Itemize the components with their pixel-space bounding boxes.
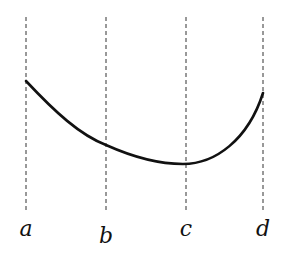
diagram-figure: a b c d (0, 0, 286, 255)
marker-label-c: c (180, 216, 192, 241)
marker-label-a: a (19, 216, 32, 241)
marker-label-d: d (256, 216, 270, 241)
curve (26, 81, 263, 164)
marker-label-b: b (99, 223, 113, 248)
marker-labels: a b c d (19, 216, 270, 248)
